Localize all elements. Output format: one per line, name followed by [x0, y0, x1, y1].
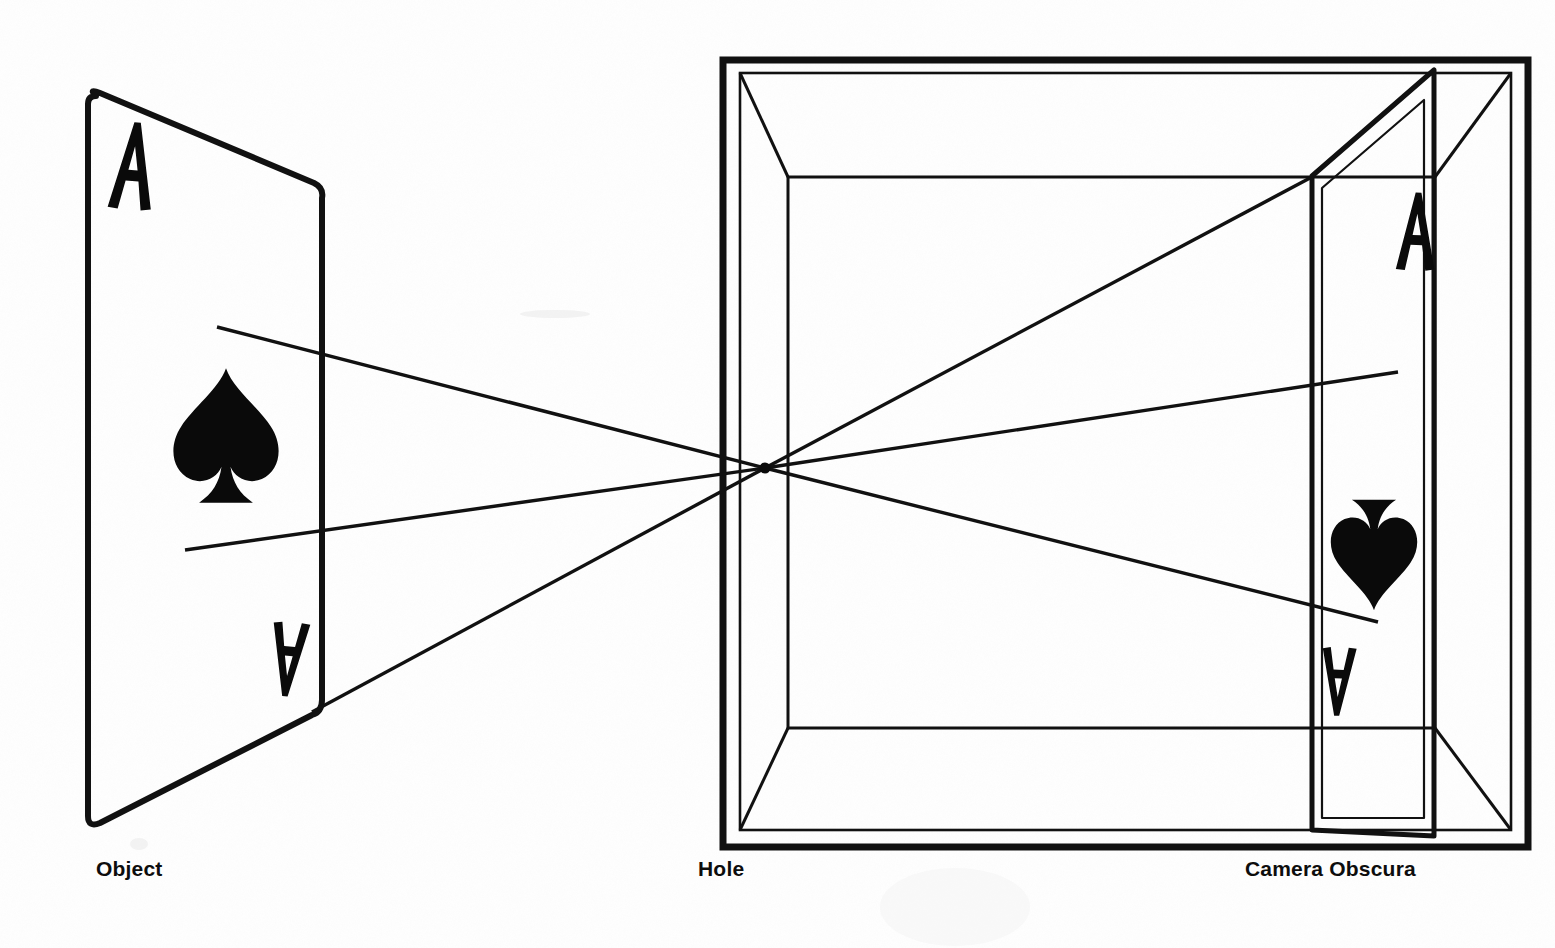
pinhole-aperture: [760, 463, 771, 474]
diagram-page: a ,gnorts enihcam eht ni a pmal htiw ,tn…: [0, 0, 1555, 948]
camera-obscura-diagram: [0, 0, 1555, 948]
caption-camera-obscura: Camera Obscura: [1245, 857, 1416, 881]
caption-hole: Hole: [698, 857, 744, 881]
pinhole-dot: [760, 463, 771, 474]
caption-object: Object: [96, 857, 163, 881]
